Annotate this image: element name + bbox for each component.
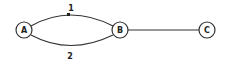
node-b-label: B (117, 26, 123, 35)
node-b: B (112, 22, 128, 38)
edge-marker-icon (67, 13, 70, 16)
graph-canvas: 1 2 A B C (0, 0, 231, 65)
edge-a-b-1 (31, 15, 113, 26)
node-a-label: A (21, 26, 28, 35)
edge-a-b-2 (31, 35, 113, 46)
node-a: A (16, 22, 32, 38)
edge-label-1: 1 (68, 4, 74, 13)
graph-diagram: 1 2 A B C (0, 0, 231, 65)
node-c-label: C (204, 26, 210, 35)
node-c: C (199, 22, 215, 38)
edge-label-2: 2 (67, 52, 73, 61)
